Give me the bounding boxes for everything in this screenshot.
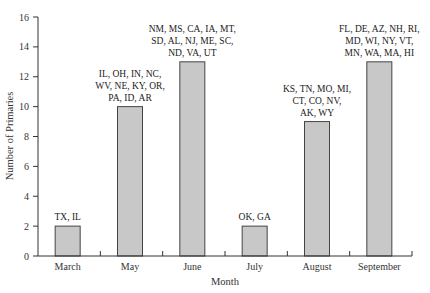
bar-september — [367, 62, 392, 256]
bar-chart: TX, ILIL, OH, IN, NC,WV, NE, KY, OR,PA, … — [0, 0, 430, 293]
bar-march — [55, 226, 80, 256]
bar-annotation-line: MD, WI, NY, VT, — [345, 36, 413, 46]
bar-annotation-line: MN, WA, MA, HI — [345, 48, 415, 58]
y-tick-label: 10 — [19, 101, 29, 112]
bar-annotation-line: CT, CO, NV, — [292, 96, 341, 106]
y-tick-label: 8 — [24, 131, 29, 142]
y-tick-label: 12 — [19, 71, 29, 82]
bar-annotations: TX, ILIL, OH, IN, NC,WV, NE, KY, OR,PA, … — [54, 24, 419, 222]
y-axis-ticks: 0246810121416 — [19, 12, 38, 262]
y-tick-label: 14 — [19, 41, 29, 52]
y-axis-title: Number of Primaries — [4, 92, 15, 181]
y-tick-label: 16 — [19, 12, 29, 23]
y-tick-label: 0 — [24, 251, 29, 262]
bar-annotation-line: PA, ID, AR — [108, 93, 152, 103]
y-tick-label: 6 — [24, 161, 29, 172]
bar-june — [180, 62, 205, 256]
bar-annotation-line: OK, GA — [239, 212, 271, 222]
x-tick-label: August — [303, 261, 332, 272]
x-tick-label: July — [246, 261, 263, 272]
bar-august — [305, 122, 330, 256]
bar-annotation-line: AK, WY — [300, 108, 334, 118]
x-axis-ticks: MarchMayJuneJulyAugustSeptember — [55, 251, 412, 272]
bar-annotation-line: FL, DE, AZ, NH, RI, — [339, 24, 420, 34]
x-tick-label: June — [183, 261, 202, 272]
x-tick-label: May — [121, 261, 139, 272]
y-tick-label: 2 — [24, 221, 29, 232]
y-tick-label: 4 — [24, 191, 29, 202]
bar-annotation-line: NM, MS, CA, IA, MT, — [149, 24, 236, 34]
x-tick-label: September — [358, 261, 401, 272]
bar-may — [118, 107, 143, 256]
bar-annotation-line: KS, TN, MO, MI, — [283, 84, 351, 94]
bar-annotation-line: ND, VA, UT — [168, 48, 216, 58]
x-tick-label: March — [55, 261, 81, 272]
bar-annotation-line: IL, OH, IN, NC, — [99, 69, 162, 79]
bar-july — [242, 226, 267, 256]
bar-annotation-line: TX, IL — [54, 212, 81, 222]
bar-annotation-line: WV, NE, KY, OR, — [95, 81, 165, 91]
x-axis-title: Month — [211, 276, 240, 287]
bar-annotation-line: SD, AL, NJ, ME, SC, — [151, 36, 233, 46]
